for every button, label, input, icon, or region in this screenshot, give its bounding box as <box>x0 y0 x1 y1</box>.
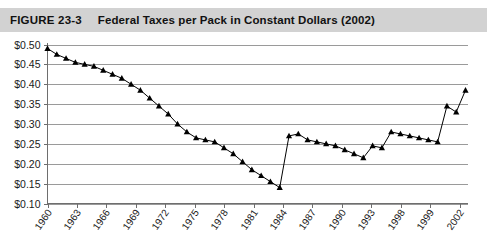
x-axis-tick-label: 2002 <box>444 207 466 232</box>
x-axis-tick-label: 1998 <box>385 207 407 232</box>
x-axis-tick-label: 1990 <box>326 207 348 232</box>
x-axis-tick-label: 1999 <box>414 207 436 232</box>
figure-container: FIGURE 23-3 Federal Taxes per Pack in Co… <box>0 0 487 240</box>
x-axis-tick-label: 1960 <box>32 207 54 232</box>
y-axis-tick-label: $0.50 <box>14 39 40 51</box>
data-point-marker <box>137 87 143 93</box>
line-chart-svg: $0.50$0.45$0.40$0.35$0.30$0.25$0.20$0.15… <box>0 32 487 240</box>
y-axis-tick-label: $0.45 <box>14 58 40 70</box>
x-axis-tick-label: 1963 <box>61 207 83 232</box>
y-axis-tick-label: $0.20 <box>14 158 40 170</box>
data-point-marker <box>388 129 394 135</box>
data-point-marker <box>230 151 236 157</box>
y-axis-tick-label: $0.40 <box>14 78 40 90</box>
chart-data-markers <box>44 45 468 190</box>
x-axis-tick-label: 1975 <box>179 207 201 232</box>
data-point-marker <box>295 131 301 137</box>
figure-header-inner: FIGURE 23-3 Federal Taxes per Pack in Co… <box>10 8 375 32</box>
data-point-marker <box>267 178 273 184</box>
y-axis-tick-label: $0.25 <box>14 138 40 150</box>
data-point-marker <box>44 45 50 51</box>
data-point-marker <box>444 103 450 109</box>
x-axis-tick-label: 1987 <box>296 207 318 232</box>
data-point-marker <box>277 184 283 190</box>
figure-title-label: Federal Taxes per Pack in Constant Dolla… <box>98 14 375 26</box>
x-axis-tick-label: 1993 <box>355 207 377 232</box>
figure-header-band: FIGURE 23-3 Federal Taxes per Pack in Co… <box>0 8 487 32</box>
figure-number-label: FIGURE 23-3 <box>10 14 82 26</box>
y-axis-tick-label: $0.10 <box>14 198 40 210</box>
y-axis-tick-label: $0.30 <box>14 118 40 130</box>
chart-x-axis-labels: 1960196319661969197219751978198119841987… <box>32 207 466 232</box>
x-axis-tick-label: 1966 <box>90 207 112 232</box>
data-point-marker <box>370 143 376 149</box>
data-point-marker <box>304 137 310 143</box>
chart-data-line <box>48 48 466 187</box>
chart-plot-area: $0.50$0.45$0.40$0.35$0.30$0.25$0.20$0.15… <box>0 32 487 240</box>
x-axis-tick-label: 1972 <box>149 207 171 232</box>
x-axis-tick-label: 1984 <box>267 207 289 232</box>
data-point-marker <box>54 51 60 57</box>
x-axis-tick-label: 1978 <box>208 207 230 232</box>
data-point-marker <box>128 81 134 87</box>
x-axis-tick-label: 1981 <box>238 207 260 232</box>
chart-gridlines <box>48 46 468 205</box>
data-point-marker <box>193 135 199 141</box>
data-point-marker <box>258 172 264 178</box>
data-point-marker <box>221 145 227 151</box>
chart-y-axis-labels: $0.50$0.45$0.40$0.35$0.30$0.25$0.20$0.15… <box>14 39 40 210</box>
chart-axes <box>47 43 468 205</box>
y-axis-tick-label: $0.15 <box>14 178 40 190</box>
data-point-marker <box>453 109 459 115</box>
data-point-marker <box>462 87 468 93</box>
x-axis-tick-label: 1969 <box>120 207 142 232</box>
y-axis-tick-label: $0.35 <box>14 98 40 110</box>
